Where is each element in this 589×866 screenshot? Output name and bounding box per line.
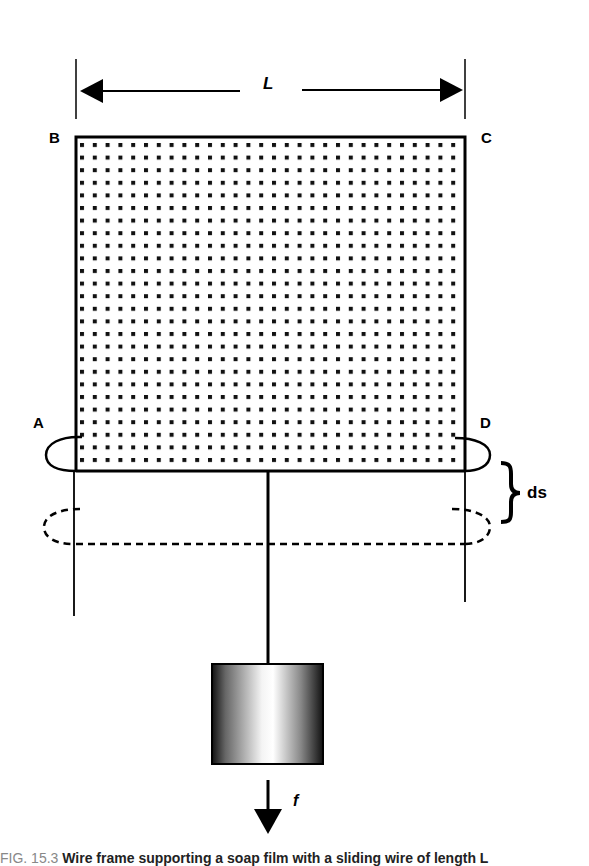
displacement-label: ds <box>527 484 547 501</box>
force-label: f <box>293 793 298 809</box>
corner-label-a: A <box>33 415 44 430</box>
force-arrow-icon <box>254 809 282 834</box>
caption-text: Wire frame supporting a soap film with a… <box>62 850 488 866</box>
corner-label-c: C <box>481 130 492 145</box>
soap-film <box>76 136 465 471</box>
figure-caption: FIG. 15.3 Wire frame supporting a soap f… <box>0 851 589 865</box>
ds-brace-icon <box>501 463 520 522</box>
arrow-right-icon <box>440 78 463 102</box>
weight-block <box>212 664 323 764</box>
length-label: L <box>263 75 273 92</box>
figure-number: FIG. 15.3 <box>0 850 58 866</box>
corner-label-d: D <box>480 415 491 430</box>
loop-d-displaced <box>452 509 490 544</box>
arrow-left-icon <box>80 79 103 103</box>
corner-label-b: B <box>49 130 60 145</box>
